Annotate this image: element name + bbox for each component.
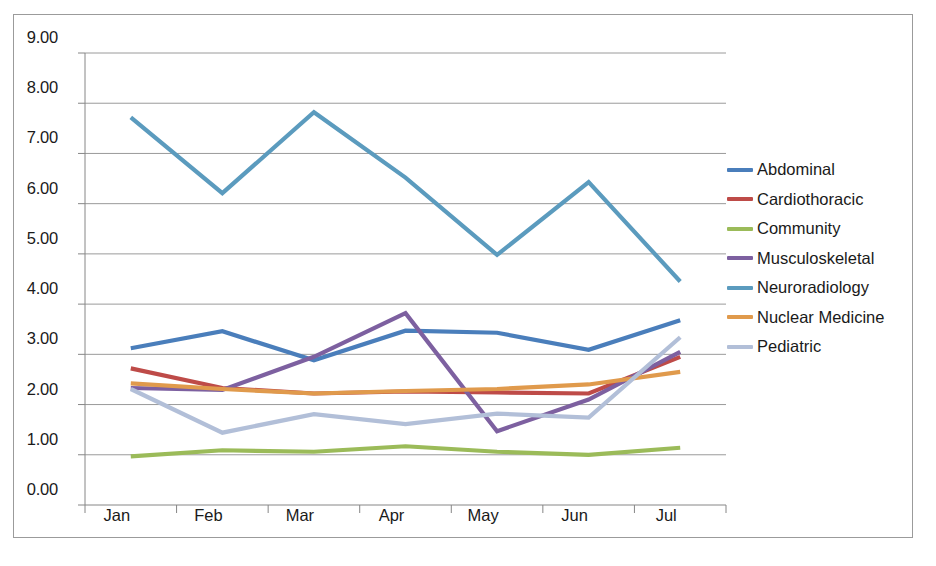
legend-label: Pediatric [757,337,821,356]
legend-item-abdominal[interactable]: Abdominal [727,155,917,185]
legend-item-nuclear-medicine[interactable]: Nuclear Medicine [727,303,917,333]
y-axis-label: 4.00 [0,279,58,298]
x-axis-label-apr: Apr [347,506,437,525]
legend-swatch-icon [727,256,753,260]
legend-swatch-icon [727,168,753,172]
legend-swatch-icon [727,345,753,349]
x-axis-label-mar: Mar [255,506,345,525]
legend-label: Community [757,219,840,238]
y-axis-label: 8.00 [0,78,58,97]
x-axis-label-may: May [438,506,528,525]
legend-label: Nuclear Medicine [757,308,884,327]
y-axis-label: 1.00 [0,430,58,449]
legend-label: Cardiothoracic [757,190,863,209]
legend-label: Abdominal [757,160,835,179]
x-axis-label-jan: Jan [72,506,162,525]
y-axis-label: 6.00 [0,179,58,198]
legend-swatch-icon [727,197,753,201]
legend-label: Neuroradiology [757,278,869,297]
legend-item-community[interactable]: Community [727,214,917,244]
legend-item-pediatric[interactable]: Pediatric [727,332,917,362]
legend-item-cardiothoracic[interactable]: Cardiothoracic [727,185,917,215]
y-axis-label: 0.00 [0,480,58,499]
y-axis-label: 5.00 [0,229,58,248]
x-axis-label-jun: Jun [530,506,620,525]
x-axis-label-jul: Jul [621,506,711,525]
legend-swatch-icon [727,227,753,231]
chart-legend: AbdominalCardiothoracicCommunityMusculos… [727,155,917,362]
legend-label: Musculoskeletal [757,249,874,268]
y-axis-label: 3.00 [0,329,58,348]
y-axis-label: 2.00 [0,380,58,399]
series-line-neuroradiology [131,112,680,281]
legend-swatch-icon [727,315,753,319]
y-axis-label: 7.00 [0,128,58,147]
legend-item-neuroradiology[interactable]: Neuroradiology [727,273,917,303]
y-axis-label: 9.00 [0,28,58,47]
x-axis-label-feb: Feb [163,506,253,525]
legend-item-musculoskeletal[interactable]: Musculoskeletal [727,244,917,274]
legend-swatch-icon [727,286,753,290]
